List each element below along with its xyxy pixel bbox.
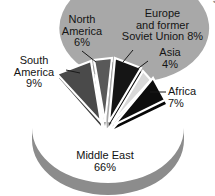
label-asia: Asia 4% [150, 47, 190, 70]
label-north-america: North America 6% [51, 14, 113, 49]
label-south-america: South America 9% [2, 55, 66, 90]
pie-chart-figure: Distribution of world oil reserves by re… [0, 0, 215, 196]
label-africa: Africa 7% [168, 86, 215, 109]
label-europe-soviet: Europe and former Soviet Union 8% [110, 8, 215, 43]
label-middle-east: Middle East 66% [55, 150, 155, 173]
